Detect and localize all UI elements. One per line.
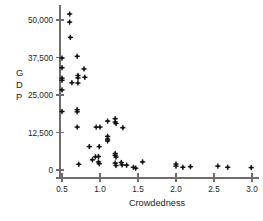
x-tick-label: 0.5 <box>56 185 68 194</box>
data-point <box>82 75 87 80</box>
y-tick-label: 50,000 <box>28 16 53 25</box>
data-point <box>225 165 230 170</box>
data-point <box>249 165 254 170</box>
y-tick-label: 25,000 <box>28 91 53 100</box>
data-point <box>215 164 220 169</box>
y-axis-title-letter: G <box>16 67 23 78</box>
data-point <box>96 154 101 159</box>
y-tick-label: 37,500 <box>28 54 53 63</box>
y-axis-title-letter: P <box>16 91 22 102</box>
data-point <box>90 157 95 162</box>
data-point <box>87 144 92 149</box>
data-point-group <box>59 11 253 170</box>
plot-area: 012,50025,00037,50050,0000.51.01.52.02.5… <box>0 0 263 221</box>
x-tick-label: 1.5 <box>132 185 144 194</box>
data-point <box>124 163 129 168</box>
data-point <box>68 35 73 40</box>
x-tick-label: 1.0 <box>94 185 106 194</box>
data-point <box>105 119 110 124</box>
data-point <box>140 159 145 164</box>
x-tick-label: 2.0 <box>170 185 182 194</box>
x-tick-label: 3.0 <box>246 185 258 194</box>
data-point <box>180 165 185 170</box>
x-axis-title: Crowdedness <box>129 198 186 208</box>
data-point <box>75 54 80 59</box>
data-point <box>69 80 74 85</box>
x-tick-label: 2.5 <box>208 185 220 194</box>
data-point <box>97 125 102 130</box>
data-point <box>75 80 80 85</box>
data-point <box>75 125 80 130</box>
scatter-chart: 012,50025,00037,50050,0000.51.01.52.02.5… <box>0 0 263 221</box>
y-axis-title-letter: D <box>16 79 23 90</box>
data-point <box>67 11 72 16</box>
data-point <box>76 162 81 167</box>
data-point <box>188 164 193 169</box>
y-tick-label: 0 <box>48 166 53 175</box>
data-point <box>120 125 125 130</box>
y-tick-label: 12,500 <box>28 129 53 138</box>
data-point <box>97 144 102 149</box>
data-point <box>81 66 86 71</box>
data-point <box>67 20 72 25</box>
